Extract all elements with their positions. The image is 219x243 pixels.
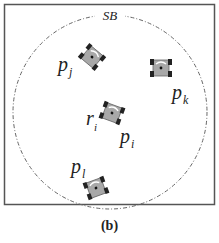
boundary-label: SB (103, 8, 118, 23)
robot-label-main: p (69, 155, 81, 178)
robot-label-sub: l (82, 167, 86, 181)
robot-pj: p j (56, 43, 106, 79)
robot-radius-label-main: r (86, 107, 94, 129)
figure: SB p j p k r (0, 0, 219, 243)
robot-label-main: p (56, 53, 68, 76)
robot-pl: p l (69, 155, 109, 200)
robot-icon (78, 43, 106, 71)
figure-caption: (b) (0, 218, 219, 234)
robot-icon (99, 101, 126, 125)
robot-icon (83, 176, 110, 200)
robot-pk: p k (150, 59, 189, 107)
robot-label-main: p (118, 125, 130, 148)
robot-radius-label-sub: i (94, 121, 97, 133)
robot-label-main: p (170, 81, 182, 104)
diagram-canvas: SB p j p k r (0, 0, 219, 243)
robot-icon (150, 59, 172, 77)
robot-pi: r i p i (86, 101, 134, 151)
robot-label-sub: k (183, 93, 189, 107)
robot-label-sub: i (131, 137, 134, 151)
